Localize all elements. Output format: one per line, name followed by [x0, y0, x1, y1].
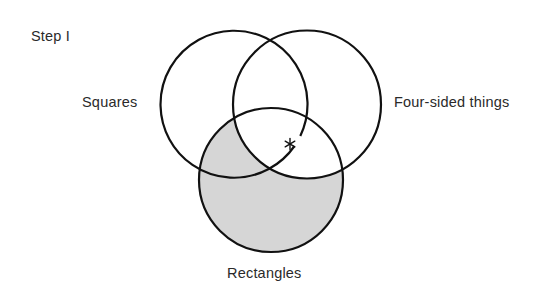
squares-label: Squares [82, 94, 137, 110]
four-sided-things-label: Four-sided things [394, 94, 509, 110]
venn-diagram [0, 0, 560, 293]
step-label: Step I [31, 28, 70, 44]
rectangles-label: Rectangles [227, 265, 302, 281]
